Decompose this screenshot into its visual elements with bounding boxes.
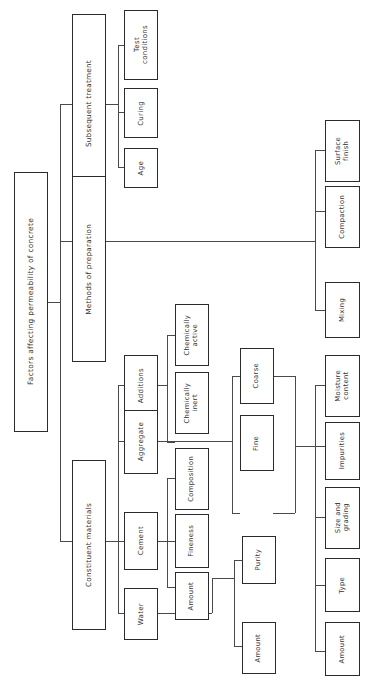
node-curing[interactable]: Curing: [124, 88, 158, 138]
connector-aggregate-props-bus: [315, 385, 316, 651]
connector-level1-bus: [60, 104, 61, 541]
connector-subsequent-stem: [106, 104, 118, 105]
connector-cement-bus: [167, 478, 168, 587]
connector-methods-bus: [315, 150, 316, 310]
connector-root-stem: [48, 302, 60, 303]
node-size-and-grading[interactable]: Size and grading: [325, 487, 360, 549]
node-composition-label: Composition: [188, 456, 196, 502]
node-fine-label: Fine: [253, 436, 261, 451]
connector-to-subsequent-treatment: [60, 104, 72, 105]
connector-to-type: [315, 585, 325, 586]
node-purity-label: Purity: [255, 549, 263, 570]
connector-subsequent-bus: [118, 45, 119, 167]
diagram-canvas: Factors affecting permeability of concre…: [0, 0, 365, 693]
node-surface-finish[interactable]: Surface finish: [325, 120, 360, 182]
node-aggregate[interactable]: Aggregate: [124, 410, 158, 474]
connector-cement-stem: [157, 541, 167, 542]
node-root-label: Factors affecting permeability of concre…: [27, 218, 36, 385]
node-moisture-content[interactable]: Moisture content: [325, 355, 360, 417]
connector-methods-stem: [106, 241, 315, 242]
node-fineness[interactable]: Fineness: [175, 514, 209, 568]
node-constituent-materials-label: Constituent materials: [85, 503, 93, 587]
node-cement-amount-label: Amount: [188, 582, 196, 611]
node-root[interactable]: Factors affecting permeability of concre…: [14, 172, 48, 432]
node-moisture-content-label: Moisture content: [335, 370, 351, 402]
connector-to-cement-amount: [167, 587, 175, 588]
node-water[interactable]: Water: [124, 588, 158, 640]
connector-to-coarse: [232, 376, 240, 377]
connector-purity-riser: [234, 560, 235, 578]
connector-to-fine: [232, 513, 240, 514]
connector-water-children-bus: [234, 578, 235, 646]
node-subsequent-treatment[interactable]: Subsequent treatment: [72, 14, 106, 194]
node-chemically-active-label: Chemically active: [184, 315, 200, 355]
node-constituent-materials[interactable]: Constituent materials: [72, 460, 106, 630]
node-type[interactable]: Type: [325, 558, 360, 612]
node-surface-finish-label: Surface finish: [335, 137, 351, 165]
connector-aggregate-bus: [232, 376, 233, 513]
node-cement-amount[interactable]: Amount: [175, 572, 209, 620]
node-mixing-label: Mixing: [339, 298, 347, 322]
node-curing-label: Curing: [137, 101, 145, 126]
connector-to-impurities: [315, 446, 325, 447]
node-composition[interactable]: Composition: [175, 448, 209, 510]
node-additions-label: Additions: [137, 368, 145, 403]
connector-aggregate-stem: [157, 441, 232, 442]
connector-to-chemically-active: [167, 335, 175, 336]
connector-to-constituent-materials: [60, 541, 72, 542]
node-subsequent-treatment-label: Subsequent treatment: [85, 60, 93, 147]
connector-to-water-amount: [234, 646, 242, 647]
node-compaction-label: Compaction: [339, 195, 347, 239]
connector-to-moisture-content: [315, 385, 325, 386]
node-size-and-grading-label: Size and grading: [335, 502, 351, 533]
connector-to-surface-finish: [315, 150, 325, 151]
connector-to-mixing: [315, 310, 325, 311]
node-methods-of-preparation-label: Methods of preparation: [85, 224, 93, 315]
node-test-conditions[interactable]: Test conditions: [124, 10, 158, 80]
node-age-label: Age: [137, 161, 145, 175]
connector-water-bus-top: [212, 578, 234, 579]
node-water-amount-label: Amount: [255, 634, 263, 663]
node-water-label: Water: [137, 603, 145, 625]
node-methods-of-preparation[interactable]: Methods of preparation: [72, 176, 106, 362]
node-mixing[interactable]: Mixing: [325, 282, 360, 338]
connector-aggregate-props-stem: [295, 446, 315, 447]
node-coarse-label: Coarse: [253, 363, 261, 388]
connector-to-chemically-inert: [167, 442, 175, 443]
node-cement-label: Cement: [137, 526, 145, 555]
connector-to-fineness: [167, 541, 175, 542]
node-water-amount[interactable]: Amount: [242, 622, 276, 674]
node-fine[interactable]: Fine: [240, 415, 274, 471]
node-cement[interactable]: Cement: [124, 512, 158, 570]
connector-to-compaction: [315, 211, 325, 212]
connector-coarse-out: [273, 376, 295, 377]
node-impurities[interactable]: Impurities: [325, 422, 360, 480]
connector-to-aggregate-amount: [315, 651, 325, 652]
connector-to-purity: [234, 560, 242, 561]
connector-additions-stem: [157, 385, 167, 386]
connector-water-bus: [212, 578, 213, 613]
connector-constituent-bus: [118, 385, 119, 613]
node-impurities-label: Impurities: [339, 432, 347, 469]
connector-to-methods-of-preparation: [60, 241, 72, 242]
node-compaction[interactable]: Compaction: [325, 186, 360, 248]
node-age[interactable]: Age: [124, 148, 158, 188]
connector-to-composition: [167, 478, 175, 479]
connector-aggregate-props-riser: [295, 376, 296, 513]
node-fineness-label: Fineness: [188, 525, 196, 557]
connector-to-size-and-grading: [315, 517, 325, 518]
node-test-conditions-label: Test conditions: [133, 25, 149, 64]
connector-constituent-stem: [106, 541, 118, 542]
node-chemically-inert-label: Chemically inert: [184, 383, 200, 423]
node-coarse[interactable]: Coarse: [240, 348, 274, 404]
connector-additions-bus: [167, 335, 168, 442]
node-chemically-active[interactable]: Chemically active: [175, 304, 209, 366]
node-type-label: Type: [339, 577, 347, 594]
node-purity[interactable]: Purity: [242, 536, 276, 584]
connector-fine-out: [273, 513, 295, 514]
node-aggregate-label: Aggregate: [137, 422, 145, 461]
node-chemically-inert[interactable]: Chemically inert: [175, 372, 209, 434]
node-aggregate-amount-label: Amount: [339, 635, 347, 664]
node-aggregate-amount[interactable]: Amount: [325, 622, 360, 676]
node-additions[interactable]: Additions: [124, 355, 158, 417]
